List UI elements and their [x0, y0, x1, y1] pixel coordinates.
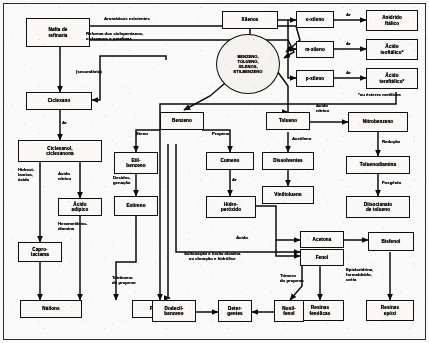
node-label: Xilenos [241, 17, 258, 22]
node-benzeno[interactable]: Benzeno [160, 112, 204, 130]
edge-label-sulfonacao: Sulfonação e fusão alcalina ou cloração … [184, 252, 240, 262]
edge-label-secundario: (secundário) [76, 70, 102, 75]
node-nitrobenzeno[interactable]: Nitrobenzeno [348, 112, 408, 132]
node-tolueno[interactable]: Tolueno [266, 112, 310, 130]
node-resinas-epoxi[interactable]: Resinas epóxi [366, 300, 414, 321]
node-label: Tolueno [279, 118, 297, 123]
node-label: Resinas fenólicas [310, 305, 331, 316]
node-label: Ácido adípico [72, 202, 89, 213]
node-acido-tereftalico[interactable]: Ácido tereftálico* [366, 68, 418, 89]
edge-label-hexametilenodiamina: Hexametileno- diamina [58, 222, 87, 232]
node-nonilfenol[interactable]: Nonil- fenol [274, 300, 304, 322]
edge-label-propeno: Propeno [212, 132, 229, 137]
node-label: Etil- benzeno [126, 158, 145, 169]
edge-label-hidroxilamina: Hidroxi- lamina, ácido [18, 168, 34, 183]
node-label: Náilons [42, 306, 59, 311]
hub-label: BENZENO, TOLUENO, XILENOS, ETILBENZENO [234, 54, 263, 74]
node-label: Diisocianato de tolueno [364, 202, 393, 213]
edge-label-acido-nitrico-ciclexanol: Ácido nítrico [58, 172, 71, 182]
edge-label-aromaticos-existentes: Aromáticos existentes [104, 17, 150, 22]
node-nafta[interactable]: Nafta de refinaria [26, 18, 90, 47]
node-label: Ácido isoftálico* [380, 44, 403, 55]
node-label: Estireno [126, 203, 145, 208]
node-label: Dissolventes [273, 158, 303, 163]
edge-label-reforma: Reforma dos ciclopentanos, ciclexanos e … [86, 32, 144, 42]
node-detergentes[interactable]: Deter- gentes [218, 300, 252, 322]
node-bisfenol[interactable]: Bisfenol [368, 232, 414, 251]
node-ciclexano[interactable]: Ciclexano [26, 92, 92, 110]
edge-label-acido-hidroperoxido: Ácido [236, 236, 248, 241]
node-caprolactama[interactable]: Capro- lactama [18, 242, 62, 262]
node-acido-isoftalico[interactable]: Ácido isoftálico* [366, 39, 418, 60]
node-etilbenzeno[interactable]: Etil- benzeno [114, 152, 158, 174]
node-label: Deter- gentes [227, 306, 242, 317]
edge-label-ar-m-xileno: Ar [346, 42, 351, 47]
node-p-xileno[interactable]: p-xileno [296, 70, 334, 87]
node-label: Resinas epóxi [381, 305, 399, 316]
node-btx-hub[interactable]: BENZENO, TOLUENO, XILENOS, ETILBENZENO [216, 34, 280, 94]
node-xilenos[interactable]: Xilenos [222, 11, 278, 29]
node-label: Nafta de refinaria [48, 27, 67, 38]
edge-label-acido-nitrico-tolueno: Ácido nítrico [316, 104, 329, 114]
edge-label-ar-o-xileno: Ar [346, 13, 351, 18]
node-viniltolueno[interactable]: Viniltolueno [262, 186, 314, 204]
node-diisocianato-tolueno[interactable]: Diisocianato de tolueno [346, 196, 410, 218]
node-fenol[interactable]: Fenol [300, 249, 344, 266]
node-label: Benzeno [172, 118, 192, 123]
node-o-xileno[interactable]: o-xileno [296, 11, 334, 28]
node-label: Nonil- fenol [282, 306, 296, 317]
node-label: m-xileno [305, 47, 325, 52]
node-label: p-xileno [306, 76, 324, 81]
node-acido-adipico[interactable]: Ácido adípico [58, 198, 102, 216]
node-label: Hidro- peróxido [221, 202, 241, 213]
node-hidroperoxido[interactable]: Hidro- peróxido [206, 196, 256, 218]
node-ciclexanol[interactable]: Ciclexanol, ciclexanona [18, 140, 102, 162]
node-anidrido-ftalico[interactable]: Anidrido ftálico [366, 10, 418, 31]
node-label: Acetona [313, 237, 332, 242]
node-m-xileno[interactable]: m-xileno [296, 41, 334, 58]
node-dodecilbenzeno[interactable]: Dodecil- benzeno [152, 300, 196, 322]
edge-label-esteres-metilicos: *ou ésteres metílicos [358, 93, 401, 98]
edge-label-fosgenio: Fosgênio [382, 181, 401, 186]
node-label: Dodecil- benzeno [164, 306, 183, 317]
node-toluenodiamina[interactable]: Toluenodiamina [346, 156, 410, 174]
node-label: Toluenodiamina [360, 162, 396, 167]
edge-label-reducao: Redução [382, 140, 400, 145]
edge-label-desidrogenacao: Desidro- genação [113, 176, 130, 186]
edge-label-eteno: Eteno [136, 132, 148, 137]
node-label: Viniltolueno [274, 192, 301, 197]
node-cumeno[interactable]: Cumeno [206, 152, 254, 170]
node-label: Ciclexanol, ciclexanona [46, 146, 73, 157]
edge-label-ar-ciclexano: Ar [62, 121, 67, 126]
edge-label-epicloridrina: Epicloridrina, formaldeído, uréia [346, 268, 373, 283]
node-label: Fenol [316, 255, 329, 260]
node-label: o-xileno [306, 17, 324, 22]
edge-label-tetramero-propeno: Tetrâmero do propeno [112, 276, 136, 286]
node-dissolventes[interactable]: Dissolventes [262, 152, 314, 170]
diagram-canvas: Nafta de refinaria Ciclexano Ciclexanol,… [0, 0, 429, 343]
node-label: Ciclexano [48, 98, 71, 103]
edge-label-trimero-propeno: Trímero do propeno [280, 274, 304, 284]
node-label: Cumeno [221, 158, 240, 163]
node-label: Capro- lactama [31, 247, 49, 258]
node-label: Ácido tereftálico* [380, 73, 405, 84]
node-estireno[interactable]: Estireno [114, 196, 158, 216]
node-label: Bisfenol [382, 239, 401, 244]
edge-label-ar-cumeno: Ar [232, 178, 237, 183]
edge-label-ar-p-xileno: Ar [346, 71, 351, 76]
node-label: Anidrido ftálico [382, 15, 402, 26]
edge-label-acetileno: Acetileno [292, 137, 311, 142]
node-nailons[interactable]: Náilons [20, 300, 82, 318]
node-acetona[interactable]: Acetona [300, 231, 344, 248]
node-label: Nitrobenzeno [363, 119, 394, 124]
